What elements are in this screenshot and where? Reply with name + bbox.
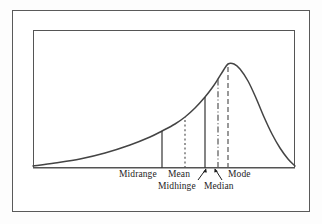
median-label: Median	[204, 181, 234, 191]
median-leader-arrow	[214, 169, 222, 181]
distribution-figure: Midrange Mean Mode Midhinge Median	[0, 0, 322, 224]
midrange-label: Midrange	[119, 169, 157, 179]
mean-label: Mean	[168, 169, 190, 179]
midhinge-leader-arrow	[198, 169, 207, 181]
mode-label: Mode	[228, 169, 251, 179]
midhinge-label: Midhinge	[158, 181, 196, 191]
density-curve	[33, 63, 295, 166]
